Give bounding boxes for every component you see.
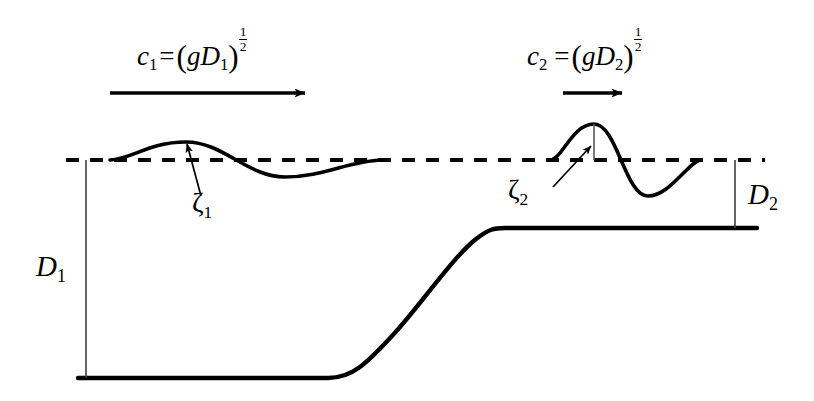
c1-exponent-numerator: 1 — [239, 25, 248, 39]
zeta-1-subscript: 1 — [204, 203, 213, 222]
c2-depth-symbol: D — [595, 41, 615, 71]
depth-2-label: D2 — [748, 180, 778, 209]
c2-exponent-denominator: 2 — [634, 39, 643, 54]
depth-2-symbol: D — [748, 178, 769, 210]
c2-close-paren: ) — [623, 39, 633, 74]
c1-exponent-denominator: 2 — [239, 39, 248, 54]
c2-symbol: c — [527, 41, 539, 71]
c1-gravity-symbol: g — [187, 41, 201, 71]
wave-shoaling-diagram: c1=(gD1)12 c2=(gD2)12 ζ1 ζ2 D1 D2 — [0, 0, 814, 401]
c1-open-paren: ( — [177, 39, 187, 74]
c1-equals: = — [159, 41, 174, 71]
depth-1-subscript: 1 — [57, 266, 66, 286]
celerity-2-formula: c2=(gD2)12 — [527, 29, 642, 70]
c2-gravity-symbol: g — [582, 41, 596, 71]
c1-exponent: 12 — [239, 25, 248, 53]
zeta-2-label: ζ2 — [508, 176, 528, 204]
diagram-canvas — [0, 0, 814, 401]
c1-subscript: 1 — [149, 55, 157, 74]
c2-subscript: 2 — [539, 55, 547, 74]
seabed-profile — [78, 228, 757, 378]
zeta-1-symbol: ζ — [192, 187, 204, 218]
c2-open-paren: ( — [572, 39, 582, 74]
c1-close-paren: ) — [228, 39, 238, 74]
c2-exponent: 12 — [634, 25, 643, 53]
zeta-1-label: ζ1 — [192, 189, 212, 217]
depth-2-subscript: 2 — [769, 194, 778, 214]
zeta-2-symbol: ζ — [508, 174, 520, 205]
zeta-2-subscript: 2 — [520, 190, 529, 209]
c2-exponent-numerator: 1 — [634, 25, 643, 39]
c1-depth-symbol: D — [200, 41, 220, 71]
depth-1-symbol: D — [36, 250, 57, 282]
celerity-1-formula: c1=(gD1)12 — [137, 29, 247, 70]
c2-equals: = — [554, 41, 569, 71]
depth-1-label: D1 — [36, 252, 66, 281]
c1-symbol: c — [137, 41, 149, 71]
